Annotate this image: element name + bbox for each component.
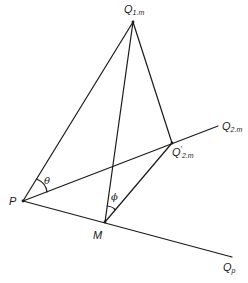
label-phi: ϕ — [111, 192, 118, 202]
segment-m-q1m — [105, 22, 133, 222]
point-m — [104, 221, 107, 224]
diagram-lines — [0, 0, 248, 283]
point-p — [22, 200, 25, 203]
segment-q2mprime-q1m — [133, 22, 172, 143]
angle-arc-phi — [107, 206, 115, 210]
label-q2m: Q2.m — [222, 121, 242, 133]
point-q2mprime — [171, 142, 174, 145]
label-q2m-prime: Q′2.m — [172, 145, 194, 159]
point-q1m — [132, 21, 135, 24]
label-qp: Qp — [223, 262, 235, 274]
segment-p-q1m — [23, 22, 133, 201]
label-p: P — [9, 196, 16, 207]
line-p-q2m — [23, 126, 218, 201]
line-p-qp — [23, 201, 232, 257]
label-m: M — [93, 230, 102, 241]
geometry-diagram: Q1.m Q2.m Q′2.m P M Qp θ ϕ — [0, 0, 248, 283]
label-theta: θ — [44, 176, 50, 186]
label-q1m: Q1.m — [124, 4, 144, 16]
